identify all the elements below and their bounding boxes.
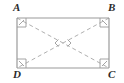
right-angle-marker-c: [100, 59, 109, 68]
right-angle-marker-d: [17, 59, 26, 68]
vertex-label-d: D: [13, 69, 21, 80]
center-angle-marker-right: [68, 40, 72, 47]
geometry-figure: A B C D: [0, 0, 124, 83]
vertex-label-c: C: [108, 69, 115, 80]
center-angle-marker-left: [55, 40, 59, 47]
vertex-label-a: A: [13, 2, 20, 13]
vertex-label-b: B: [108, 2, 115, 13]
diagonals-group: [17, 18, 109, 68]
